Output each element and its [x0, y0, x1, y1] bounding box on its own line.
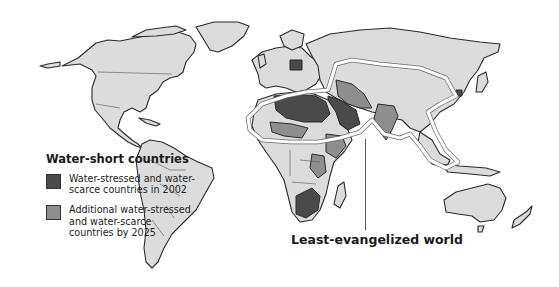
north-america [62, 32, 196, 148]
legend-label-2025: Additional water-stressed and water-scar… [69, 204, 196, 238]
legend: Water-short countries Water-stressed and… [46, 153, 196, 247]
legend-item-2002: Water-stressed and water-scarce countrie… [46, 173, 196, 195]
legend-item-2025: Additional water-stressed and water-scar… [46, 204, 196, 238]
poland [290, 60, 302, 70]
australia [444, 184, 506, 222]
alaska-chain [40, 62, 60, 68]
madagascar [334, 182, 346, 208]
least-evangelized-label: Least-evangelized world [291, 232, 463, 247]
tasmania [478, 226, 484, 232]
legend-title: Water-short countries [46, 153, 196, 166]
new-zealand [512, 206, 532, 228]
legend-label-2002: Water-stressed and water-scarce countrie… [69, 173, 196, 195]
japan [476, 72, 488, 92]
caribbean [139, 118, 160, 126]
legend-swatch-medium [46, 205, 61, 220]
greenland [196, 22, 249, 52]
callout-leader-line [365, 139, 366, 230]
legend-swatch-dark [46, 174, 61, 189]
